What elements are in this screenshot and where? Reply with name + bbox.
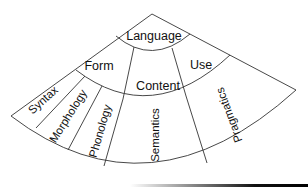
language-label: Language (126, 29, 182, 43)
pragmatics-label: Pragmatics (213, 86, 244, 144)
semantics-label: Semantics (149, 108, 161, 162)
content-label: Content (136, 79, 180, 93)
bottom-shadow-bar (130, 184, 308, 187)
form-content-divider (123, 47, 134, 99)
phonology-label: Phonology (87, 103, 114, 159)
form-label: Form (84, 59, 113, 73)
syntax-label: Syntax (26, 84, 60, 117)
use-label: Use (190, 58, 212, 72)
language-fan-diagram: Language Form Content Use Syntax Morphol… (0, 0, 308, 187)
